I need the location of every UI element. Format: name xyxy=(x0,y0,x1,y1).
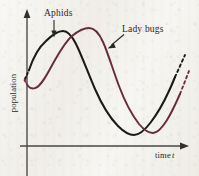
x-axis-arrowhead xyxy=(180,143,189,150)
x-axis-label-text: time xyxy=(155,150,171,160)
aphids-trail-dash xyxy=(175,55,185,77)
lady-bugs-arrowhead xyxy=(108,43,116,49)
lady-bugs-trail-dash xyxy=(180,71,189,94)
y-axis-label: population xyxy=(8,64,18,122)
lady-bugs-annotation-arrow xyxy=(108,35,125,49)
aphids-curve-path xyxy=(29,31,175,135)
series-label-lady-bugs: Lady bugs xyxy=(122,24,164,34)
lady-bugs-curve-path xyxy=(28,28,180,133)
series-label-aphids: Aphids xyxy=(44,8,73,18)
y-axis-arrowhead xyxy=(24,9,31,18)
x-axis-label: timet xyxy=(155,150,174,160)
population-cycle-figure: Aphids Lady bugs population timet xyxy=(0,0,199,176)
series-curve-lady-bugs xyxy=(25,28,190,133)
x-axis-label-variable: t xyxy=(171,150,175,160)
